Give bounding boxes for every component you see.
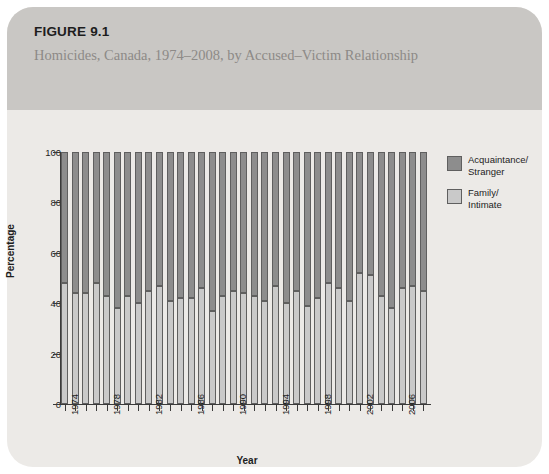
y-tick-mark [53, 253, 60, 254]
bar-segment-family-intimate [230, 291, 237, 404]
bar-2006 [399, 152, 406, 404]
chart-legend: Acquaintance/StrangerFamily/Intimate [447, 155, 539, 221]
bar-segment-family-intimate [346, 301, 353, 404]
bar-segment-acquaintance-stranger [283, 152, 290, 303]
y-tick-mark [53, 404, 60, 405]
x-tick-mark [107, 405, 108, 411]
bar-1979 [114, 152, 121, 404]
bar-segment-family-intimate [420, 291, 427, 404]
x-tick-mark [276, 405, 277, 411]
legend-swatch [447, 189, 462, 204]
bar-segment-family-intimate [114, 308, 121, 404]
bar-segment-family-intimate [188, 298, 195, 404]
bar-segment-acquaintance-stranger [325, 152, 332, 283]
bar-segment-acquaintance-stranger [314, 152, 321, 298]
x-tick-mark [318, 405, 319, 411]
bar-1991 [240, 152, 247, 404]
x-tick-mark [265, 405, 266, 411]
x-tick-label: 2006 [406, 394, 417, 415]
bar-segment-acquaintance-stranger [335, 152, 342, 288]
x-tick-mark [86, 405, 87, 411]
x-tick-mark [254, 405, 255, 411]
bar-2008 [420, 152, 427, 404]
bar-segment-family-intimate [124, 296, 131, 404]
bar-1995 [283, 152, 290, 404]
bar-segment-acquaintance-stranger [167, 152, 174, 301]
bar-segment-acquaintance-stranger [135, 152, 142, 303]
bar-segment-family-intimate [156, 286, 163, 404]
x-tick-mark [75, 405, 76, 411]
bar-segment-acquaintance-stranger [198, 152, 205, 288]
bar-segment-family-intimate [261, 301, 268, 404]
plot-area [61, 152, 430, 404]
x-tick-mark [202, 405, 203, 411]
bar-1984 [167, 152, 174, 404]
x-tick-mark [349, 405, 350, 411]
bar-1986 [188, 152, 195, 404]
bar-segment-acquaintance-stranger [378, 152, 385, 296]
bar-2007 [409, 152, 416, 404]
bar-1981 [135, 152, 142, 404]
bar-segment-acquaintance-stranger [61, 152, 68, 283]
bar-segment-family-intimate [219, 296, 226, 404]
x-tick-label: 2002 [364, 394, 375, 415]
x-tick-mark [307, 405, 308, 411]
bar-segment-family-intimate [293, 291, 300, 404]
bar-1985 [177, 152, 184, 404]
bar-1987 [198, 152, 205, 404]
bar-2005 [388, 152, 395, 404]
bar-1989 [219, 152, 226, 404]
bar-1996 [293, 152, 300, 404]
bar-segment-family-intimate [177, 298, 184, 404]
x-tick-label: 1998 [322, 394, 333, 415]
x-tick-mark [128, 405, 129, 411]
bar-segment-family-intimate [251, 296, 258, 404]
x-tick-mark [297, 405, 298, 411]
bar-1992 [251, 152, 258, 404]
bar-segment-acquaintance-stranger [114, 152, 121, 308]
bar-segment-acquaintance-stranger [399, 152, 406, 288]
x-tick-mark [117, 405, 118, 411]
bar-segment-acquaintance-stranger [82, 152, 89, 293]
bar-2000 [335, 152, 342, 404]
bar-segment-acquaintance-stranger [156, 152, 163, 286]
bar-segment-family-intimate [93, 283, 100, 404]
y-axis-label: Percentage [5, 224, 16, 278]
legend-label: Acquaintance/Stranger [468, 154, 538, 177]
bar-segment-acquaintance-stranger [188, 152, 195, 298]
bar-segment-family-intimate [304, 306, 311, 404]
figure-number: FIGURE 9.1 [34, 24, 110, 39]
x-tick-label: 1978 [111, 394, 122, 415]
bar-segment-acquaintance-stranger [420, 152, 427, 291]
bar-segment-family-intimate [82, 293, 89, 404]
bar-2002 [356, 152, 363, 404]
bar-segment-family-intimate [335, 288, 342, 404]
bar-1997 [304, 152, 311, 404]
figure-header-banner: FIGURE 9.1 Homicides, Canada, 1974–2008,… [7, 7, 542, 110]
bar-2003 [367, 152, 374, 404]
bar-segment-family-intimate [356, 273, 363, 404]
bar-1993 [261, 152, 268, 404]
bar-segment-acquaintance-stranger [219, 152, 226, 296]
x-tick-mark [360, 405, 361, 411]
bar-1982 [145, 152, 152, 404]
x-tick-mark [381, 405, 382, 411]
x-tick-mark [149, 405, 150, 411]
bar-segment-family-intimate [399, 288, 406, 404]
bar-segment-acquaintance-stranger [103, 152, 110, 296]
bar-segment-acquaintance-stranger [145, 152, 152, 291]
x-tick-mark [65, 405, 66, 411]
bar-segment-family-intimate [167, 301, 174, 404]
bar-segment-family-intimate [409, 286, 416, 404]
x-tick-mark [223, 405, 224, 411]
x-tick-label: 1974 [69, 394, 80, 415]
x-axis-label: Year [7, 455, 487, 466]
bar-segment-family-intimate [240, 293, 247, 404]
figure-container: FIGURE 9.1 Homicides, Canada, 1974–2008,… [7, 7, 542, 467]
bar-segment-family-intimate [272, 286, 279, 404]
y-tick-mark [53, 152, 60, 153]
x-tick-mark [339, 405, 340, 411]
bar-1977 [93, 152, 100, 404]
legend-label: Family/Intimate [468, 187, 538, 210]
x-tick-mark [402, 405, 403, 411]
